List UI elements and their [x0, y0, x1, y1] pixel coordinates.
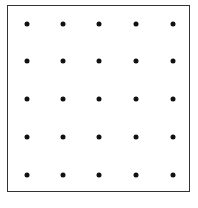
- grid-dot: [134, 97, 139, 102]
- grid-dot: [25, 135, 30, 140]
- grid-dot: [61, 97, 66, 102]
- grid-dot: [25, 59, 30, 64]
- grid-dot: [171, 22, 176, 27]
- grid-dot: [171, 173, 176, 178]
- grid-dot: [134, 135, 139, 140]
- grid-dot: [171, 135, 176, 140]
- grid-dot: [134, 59, 139, 64]
- grid-dot: [25, 22, 30, 27]
- grid-dot: [97, 135, 102, 140]
- grid-dot: [134, 22, 139, 27]
- grid-dot: [61, 59, 66, 64]
- grid-dot: [61, 173, 66, 178]
- grid-dot: [25, 173, 30, 178]
- grid-dot: [25, 97, 30, 102]
- grid-dot: [134, 173, 139, 178]
- grid-dot: [97, 97, 102, 102]
- grid-dot: [61, 135, 66, 140]
- grid-dot: [97, 59, 102, 64]
- grid-dot: [171, 59, 176, 64]
- grid-dot: [61, 22, 66, 27]
- grid-dot: [171, 97, 176, 102]
- grid-dot: [97, 22, 102, 27]
- grid-dot: [97, 173, 102, 178]
